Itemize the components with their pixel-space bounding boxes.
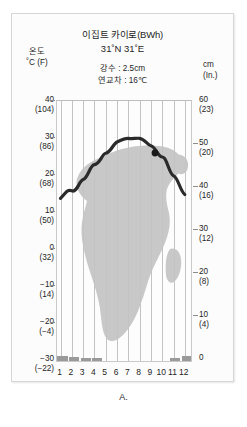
left-tick-m10: −10(14) bbox=[17, 280, 54, 300]
left-axis-header-line1: 온도 bbox=[19, 46, 55, 57]
right-axis-header-line1: cm bbox=[203, 59, 237, 70]
left-tick-30: 30(86) bbox=[17, 132, 54, 152]
right-tick-0: 0 bbox=[199, 353, 204, 363]
left-tickmark-m20 bbox=[50, 322, 55, 323]
right-tickmark-10 bbox=[193, 315, 198, 316]
left-tick-10: 10(50) bbox=[17, 206, 54, 226]
right-tick-30: 30(12) bbox=[199, 224, 214, 244]
left-tickmark-40 bbox=[50, 100, 55, 101]
right-tick-50: 50(20) bbox=[199, 138, 214, 158]
left-tickmark-m10 bbox=[50, 285, 55, 286]
left-tickmark-0 bbox=[50, 248, 55, 249]
left-tick-m20: −20(−4) bbox=[17, 317, 54, 337]
right-tick-10: 10(4) bbox=[199, 310, 209, 330]
right-tickmark-40 bbox=[193, 186, 198, 187]
figure-caption: A. bbox=[0, 392, 247, 402]
left-tickmark-10 bbox=[50, 211, 55, 212]
plot-area bbox=[56, 100, 192, 362]
left-axis-header: 온도 ˚C (F) bbox=[19, 46, 55, 68]
left-tick-40: 40(104) bbox=[17, 95, 54, 115]
month-axis-labels: 1 2 3 4 5 6 7 8 9 10 11 12 bbox=[56, 366, 192, 380]
cairo-location-marker bbox=[152, 150, 159, 157]
page-title: 이집트 카이로(BWh) bbox=[12, 28, 233, 41]
left-tick-0: 0(32) bbox=[17, 243, 54, 263]
right-tickmark-20 bbox=[193, 272, 198, 273]
left-tick-m30: −30(−22) bbox=[17, 354, 54, 374]
left-tickmark-20 bbox=[50, 174, 55, 175]
left-tick-20: 20(68) bbox=[17, 169, 54, 189]
right-tick-40: 40(16) bbox=[199, 181, 214, 201]
right-tick-20: 20(8) bbox=[199, 267, 209, 287]
month-label-12: 12 bbox=[177, 366, 191, 378]
right-axis-header: cm (In.) bbox=[203, 59, 237, 81]
left-axis-header-line2: ˚C (F) bbox=[19, 57, 55, 68]
right-tick-60: 60(23) bbox=[199, 95, 214, 115]
right-axis-header-line2: (In.) bbox=[203, 70, 237, 81]
right-tickmark-50 bbox=[193, 143, 198, 144]
temperature-curve bbox=[57, 101, 192, 362]
right-tickmark-30 bbox=[193, 229, 198, 230]
annual-range-note: 연교차 : 16℃ bbox=[12, 75, 233, 87]
left-tickmark-30 bbox=[50, 137, 55, 138]
